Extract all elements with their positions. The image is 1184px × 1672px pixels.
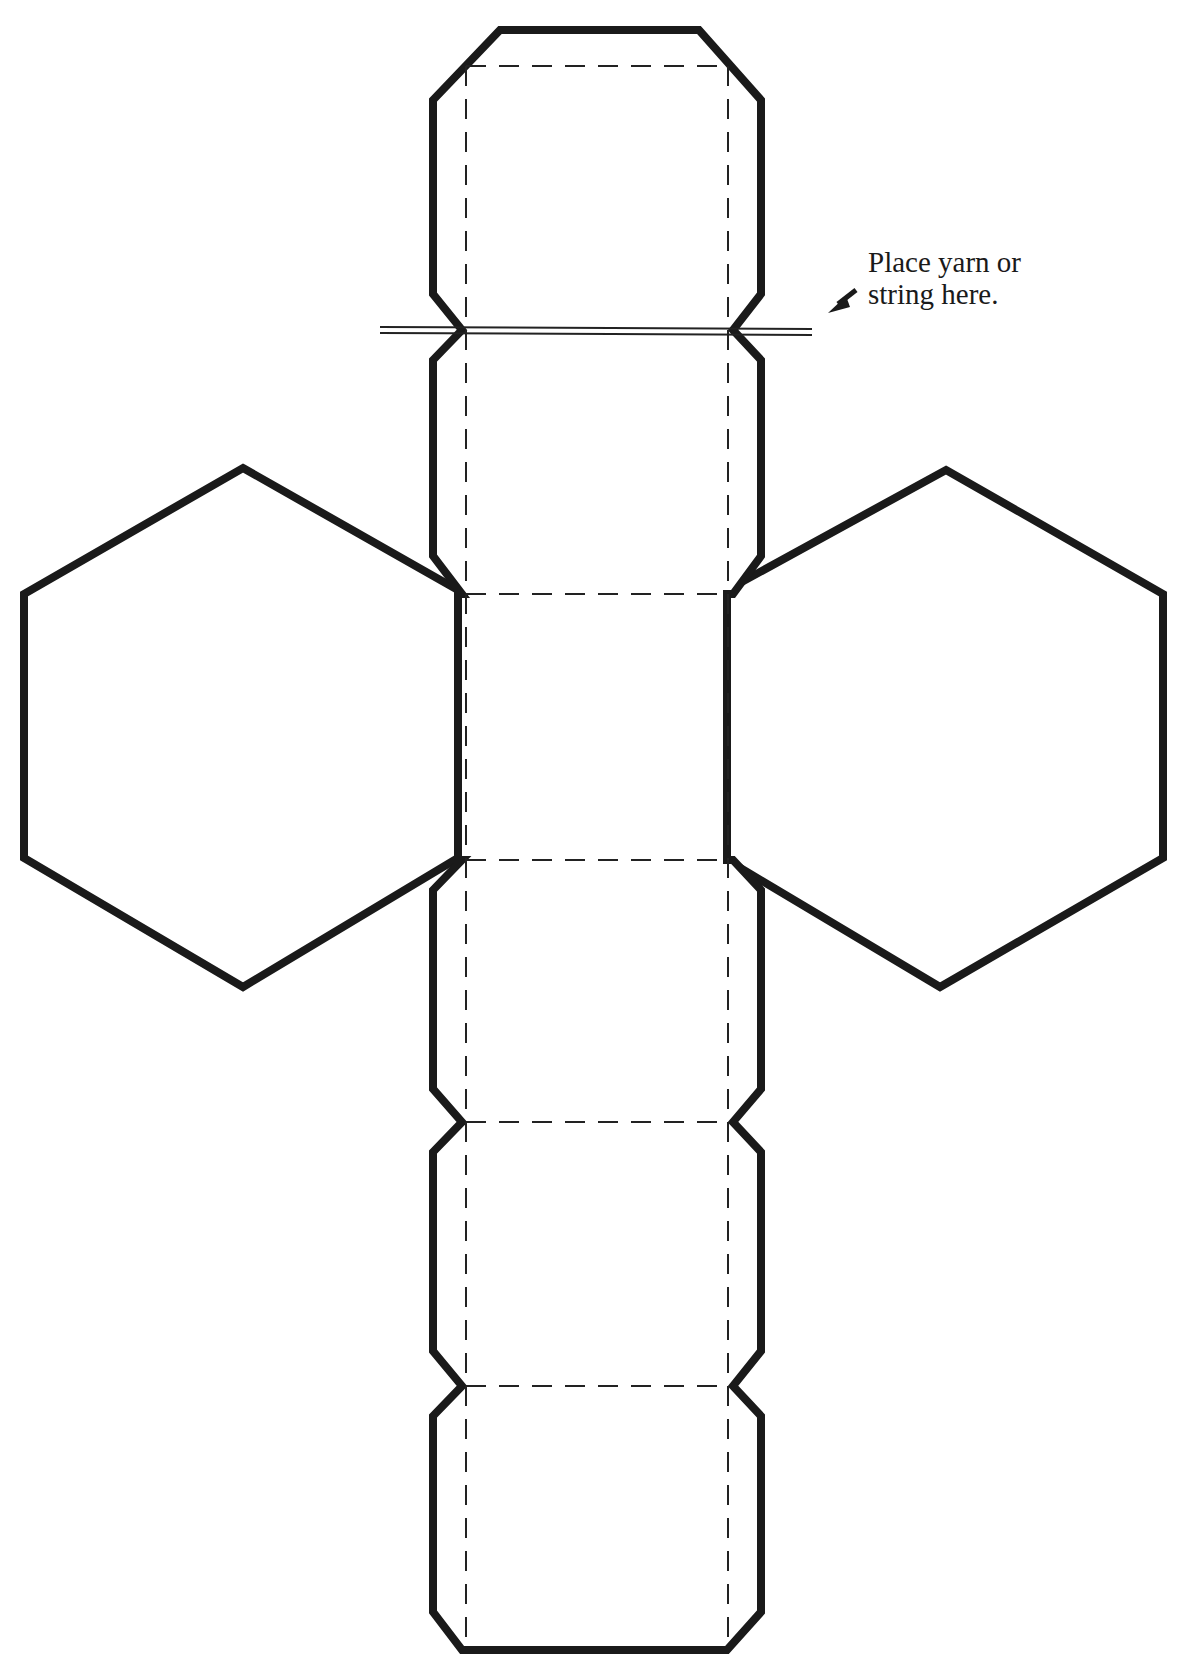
right-hexagon-cap bbox=[727, 470, 1163, 987]
yarn-instruction-label: Place yarn or string here. bbox=[868, 246, 1021, 310]
yarn-instruction-line-1: Place yarn or bbox=[868, 246, 1021, 278]
annotation-arrow-icon bbox=[828, 290, 856, 313]
left-hexagon-cap bbox=[24, 468, 458, 987]
yarn-instruction-line-2: string here. bbox=[868, 278, 1021, 310]
central-strip-outline bbox=[433, 30, 761, 1650]
